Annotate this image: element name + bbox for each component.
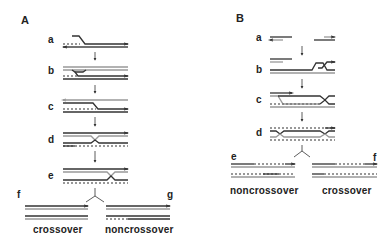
panel-a-label: A <box>21 15 29 26</box>
panel-a-step-e-duplex <box>63 168 128 183</box>
panel-b-product-f <box>312 163 377 177</box>
panel-b-step-c-duplex <box>270 92 335 107</box>
panel-a-step-b-label: b <box>48 66 54 76</box>
panel-b-step-b-label: b <box>256 65 262 75</box>
panel-b-noncrossover-caption: noncrossover <box>230 186 299 196</box>
panel-a-step-c-label: c <box>48 102 54 112</box>
panel-b-branch <box>294 145 310 157</box>
panel-a-product-f <box>25 205 88 219</box>
panel-b-label: B <box>236 13 244 24</box>
panel-a-crossover-caption: crossover <box>33 225 83 235</box>
panel-a-step-a-duplex <box>63 36 128 48</box>
panel-b-step-d-label: d <box>256 128 262 138</box>
panel-b-step-a-duplex <box>270 36 335 41</box>
panel-b-step-c-label: c <box>256 95 262 105</box>
recombination-diagram <box>0 0 390 238</box>
panel-a-step-b-duplex <box>63 67 128 79</box>
panel-b-step-b-duplex <box>270 59 335 73</box>
panel-b-product-f-label: f <box>373 153 376 163</box>
panel-a-step-c-duplex <box>63 99 128 112</box>
panel-b-crossover-caption: crossover <box>322 186 372 196</box>
panel-b-step-d-duplex <box>270 127 335 140</box>
panel-a-step-a-label: a <box>48 35 54 45</box>
panel-a-product-g <box>106 205 170 219</box>
panel-b-product-e-label: e <box>231 152 237 162</box>
panel-a-branch <box>86 188 104 202</box>
panel-a-product-g-label: g <box>167 190 173 200</box>
panel-b-step-a-label: a <box>256 33 262 43</box>
panel-a-product-f-label: f <box>17 190 20 200</box>
panel-a-step-e-label: e <box>48 171 54 181</box>
panel-a-noncrossover-caption: noncrossover <box>105 225 174 235</box>
panel-a-step-d-label: d <box>48 135 54 145</box>
panel-a-step-d-duplex <box>63 132 128 146</box>
panel-b-product-e <box>231 163 295 177</box>
